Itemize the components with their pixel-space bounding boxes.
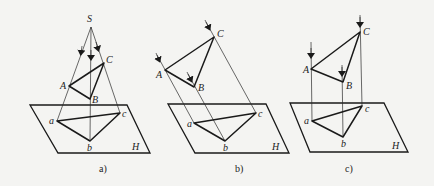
label-A: A — [155, 69, 163, 80]
triangle-abc-c — [311, 32, 360, 82]
label-s: S — [87, 13, 92, 24]
label-h: H — [271, 141, 280, 152]
label-C: C — [363, 26, 370, 37]
triangle-abc-proj-b — [194, 113, 256, 141]
label-b: b — [223, 142, 228, 153]
projector-c — [360, 15, 362, 106]
projector-a — [157, 55, 194, 123]
arrow-icon — [156, 53, 159, 60]
panel-c: A B C a b c H c) — [290, 15, 408, 175]
label-C: C — [217, 28, 224, 39]
label-a: a — [49, 115, 54, 126]
arrow-icon — [96, 42, 98, 49]
label-C: C — [106, 54, 113, 65]
label-B: B — [92, 94, 98, 105]
projector-c — [206, 22, 256, 113]
label-b: b — [87, 142, 92, 153]
label-c: c — [365, 103, 370, 114]
label-A: A — [302, 64, 310, 75]
arrow-icon — [205, 20, 209, 28]
caption-b: b) — [235, 163, 243, 175]
label-h: H — [391, 140, 400, 151]
triangle-abc-proj-c — [312, 106, 362, 137]
projection-diagram: S A B C a b c H a) A B C a b c H b) — [0, 0, 434, 186]
label-c: c — [122, 108, 127, 119]
caption-a: a) — [99, 163, 107, 175]
label-h: H — [131, 141, 140, 152]
triangle-abc-b — [165, 37, 214, 87]
caption-c: c) — [345, 163, 353, 175]
label-a: a — [187, 118, 192, 129]
label-c: c — [258, 108, 263, 119]
label-a: a — [304, 115, 309, 126]
label-b: b — [341, 138, 346, 149]
panel-a: S A B C a b c H a) — [30, 13, 150, 175]
ray-s-b — [90, 27, 91, 141]
label-A: A — [59, 80, 67, 91]
triangle-abc-a — [69, 63, 104, 99]
label-B: B — [346, 80, 352, 91]
triangle-abc-proj-a — [57, 113, 120, 141]
label-B: B — [198, 82, 204, 93]
panel-b: A B C a b c H b) — [155, 20, 289, 175]
projector-b — [342, 65, 343, 137]
arrow-icon — [187, 72, 191, 80]
